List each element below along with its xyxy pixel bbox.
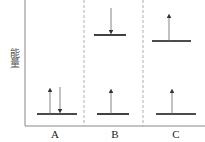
panel-b (94, 8, 129, 114)
panel-a-label: A (45, 128, 65, 140)
y-axis-label: 能量 (5, 48, 19, 68)
panel-c-label: C (166, 128, 186, 140)
panel-b-label: B (105, 128, 125, 140)
panel-c (152, 16, 196, 114)
panel-a (37, 87, 77, 114)
energy-level-diagram (0, 0, 205, 142)
